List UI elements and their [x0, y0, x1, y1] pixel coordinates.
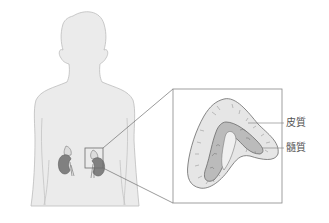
anatomy-diagram — [0, 0, 329, 223]
body-silhouette — [31, 12, 139, 206]
cortex-label: 皮質 — [286, 118, 306, 128]
medulla-label: 髓質 — [286, 143, 306, 153]
